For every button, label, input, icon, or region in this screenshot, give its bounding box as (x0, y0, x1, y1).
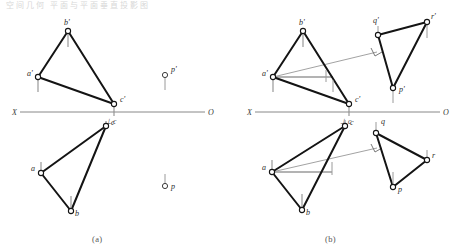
edge-aprime-cprime (38, 77, 114, 104)
vertex-b-cprime (346, 101, 351, 106)
vertex-pprime (390, 85, 395, 90)
vertex-p (390, 184, 395, 189)
edge-b-a-b (272, 172, 302, 210)
edge-a-b (41, 173, 71, 211)
panel-b-axis-label-x: X (246, 108, 253, 117)
vertex-aprime (35, 74, 40, 79)
vertex-q (373, 130, 378, 135)
label-b-aprime: a' (262, 69, 268, 78)
caption-panel-a: (a) (92, 234, 102, 244)
panel-b-top-construction (272, 126, 382, 172)
label-b-cprime: c' (355, 95, 361, 104)
vertex-isolated-pprime (162, 72, 167, 77)
vertex-b-bprime (300, 28, 305, 33)
vertex-bprime (65, 28, 70, 33)
caption-panel-b: (b) (325, 234, 336, 244)
label-isolated-pprime: p' (170, 65, 177, 74)
label-rprime: r' (431, 12, 436, 21)
panel-b-front-triangle-right (378, 22, 427, 88)
label-aprime: a' (27, 69, 33, 78)
vertex-r (424, 157, 429, 162)
vertex-b-c (342, 123, 347, 128)
label-b-bprime: b' (299, 18, 305, 27)
vertex-a (38, 170, 43, 175)
label-b-a: a (262, 163, 266, 172)
panel-a-axis-label-x: X (11, 108, 18, 117)
edge-b-aprime-cprime (273, 77, 349, 104)
label-q: q (381, 117, 385, 126)
label-b: b (75, 209, 79, 218)
panel-a: X O b' a' c' ⊥ c (11, 18, 214, 218)
panel-a-axis-label-o: O (208, 108, 214, 117)
panel-b-axis-label-o: O (443, 108, 449, 117)
panel-b-top-triangle-left (272, 126, 345, 210)
vertex-qprime (375, 32, 380, 37)
edge-qprime-pprime (378, 35, 393, 88)
edge-bprime-cprime (68, 31, 114, 104)
label-cprime: c' (120, 95, 126, 104)
geometry-figure: X O b' a' c' ⊥ c (0, 0, 450, 252)
label-c: c (111, 118, 115, 127)
label-p: p (397, 185, 402, 194)
label-pprime: p' (398, 85, 405, 94)
label-isolated-p: p (170, 182, 175, 191)
edge-rprime-pprime (393, 22, 427, 88)
vertex-b-b (299, 207, 304, 212)
label-b-c: c (350, 118, 354, 127)
vertex-cprime (111, 101, 116, 106)
vertex-b-a (269, 169, 274, 174)
edge-r-p (393, 160, 427, 187)
panel-b: X O b' a' c' ⊥ c (246, 12, 449, 217)
label-b-b: b (306, 208, 310, 217)
vertex-rprime (424, 19, 429, 24)
edge-b-bprime-aprime (273, 31, 303, 77)
vertex-b-aprime (270, 74, 275, 79)
label-a: a (31, 164, 35, 173)
panel-a-front-view-triangle (38, 31, 114, 104)
label-r: r (432, 151, 436, 160)
edge-b-bprime-cprime (303, 31, 349, 104)
edge-qprime-rprime (378, 22, 427, 35)
label-qprime: q' (373, 16, 379, 25)
vertex-isolated-p (162, 183, 167, 188)
panel-a-top-view-triangle (41, 126, 106, 211)
panel-b-top-triangle-right (376, 133, 427, 187)
vertex-b (68, 208, 73, 213)
construction-a-to-perpfoot (272, 148, 377, 172)
edge-bprime-aprime (38, 31, 68, 77)
label-bprime: b' (64, 18, 70, 27)
vertex-c (103, 123, 108, 128)
